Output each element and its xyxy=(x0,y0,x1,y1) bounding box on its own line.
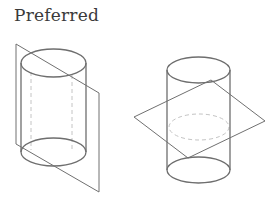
right-cylinder-top xyxy=(167,57,230,83)
right-cutting-plane xyxy=(134,80,265,158)
cylinder-figures xyxy=(0,0,277,200)
right-cylinder-bottom xyxy=(167,157,230,183)
left-cylinder-bottom-front xyxy=(21,152,86,166)
left-figure xyxy=(16,44,99,192)
right-hidden-section xyxy=(169,114,229,140)
right-figure xyxy=(134,57,265,183)
